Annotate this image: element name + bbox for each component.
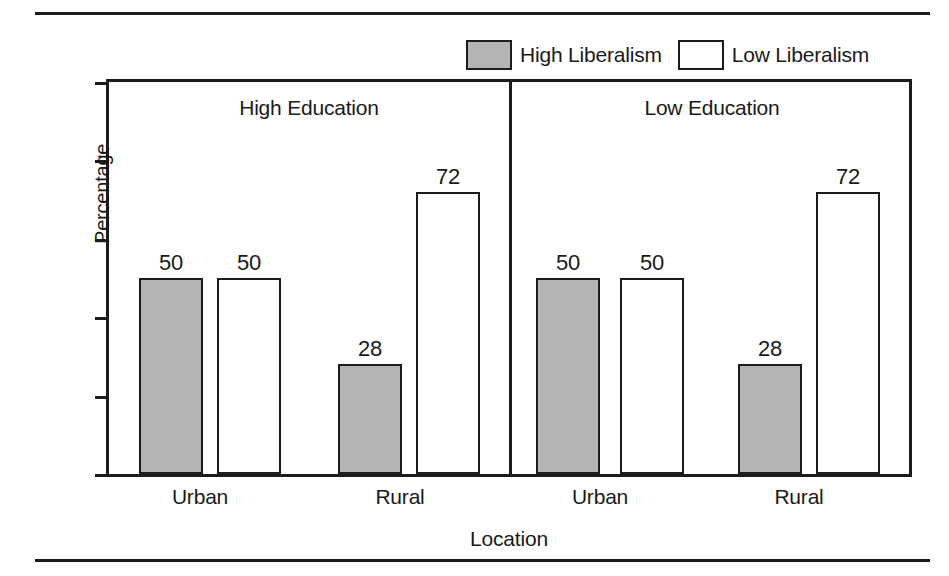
bar-value-panel0-urban-low-liberalism: 50 bbox=[237, 250, 261, 276]
y-tick-mark-60 bbox=[95, 239, 109, 242]
bar-panel1-rural-high-liberalism: 28 bbox=[738, 364, 802, 474]
panel-title-high-education: High Education bbox=[109, 96, 509, 120]
legend-entry-high-liberalism: High Liberalism bbox=[466, 40, 662, 70]
legend-label-low-liberalism: Low Liberalism bbox=[732, 43, 869, 67]
bar-panel0-rural-high-liberalism: 28 bbox=[338, 364, 402, 474]
bar-value-panel0-rural-high-liberalism: 28 bbox=[358, 336, 382, 362]
bar-value-panel1-urban-low-liberalism: 50 bbox=[640, 250, 664, 276]
bar-value-panel1-rural-high-liberalism: 28 bbox=[758, 336, 782, 362]
y-axis-title: Percentage bbox=[91, 144, 114, 244]
bar-panel1-urban-low-liberalism: 50 bbox=[620, 278, 684, 474]
legend-entry-low-liberalism: Low Liberalism bbox=[678, 40, 869, 70]
bar-value-panel1-urban-high-liberalism: 50 bbox=[556, 250, 580, 276]
top-divider-rule bbox=[35, 12, 930, 15]
bar-panel1-urban-high-liberalism: 50 bbox=[536, 278, 600, 474]
plot-area: High Education Low Education Percentage … bbox=[106, 79, 912, 477]
y-tick-mark-100 bbox=[95, 82, 109, 85]
panel-divider bbox=[509, 82, 512, 474]
panel-title-low-education: Low Education bbox=[512, 96, 912, 120]
bottom-divider-rule bbox=[35, 559, 930, 562]
chart-legend: High Liberalism Low Liberalism bbox=[466, 38, 869, 72]
legend-swatch-filled-icon bbox=[466, 40, 512, 70]
legend-swatch-hollow-icon bbox=[678, 40, 724, 70]
bar-panel0-urban-high-liberalism: 50 bbox=[139, 278, 203, 474]
x-tick-label-panel0-urban: Urban bbox=[140, 485, 260, 509]
y-tick-mark-20 bbox=[95, 396, 109, 399]
x-tick-label-panel1-rural: Rural bbox=[739, 485, 859, 509]
bar-panel0-rural-low-liberalism: 72 bbox=[416, 192, 480, 474]
bar-value-panel0-rural-low-liberalism: 72 bbox=[436, 164, 460, 190]
bar-value-panel1-rural-low-liberalism: 72 bbox=[836, 164, 860, 190]
bar-value-panel0-urban-high-liberalism: 50 bbox=[159, 250, 183, 276]
x-tick-label-panel0-rural: Rural bbox=[340, 485, 460, 509]
y-tick-mark-40 bbox=[95, 317, 109, 320]
x-axis-title: Location bbox=[106, 527, 912, 551]
y-tick-mark-80 bbox=[95, 160, 109, 163]
x-tick-label-panel1-urban: Urban bbox=[540, 485, 660, 509]
bar-panel1-rural-low-liberalism: 72 bbox=[816, 192, 880, 474]
bar-panel0-urban-low-liberalism: 50 bbox=[217, 278, 281, 474]
y-tick-mark-0 bbox=[95, 474, 109, 477]
legend-label-high-liberalism: High Liberalism bbox=[520, 43, 662, 67]
